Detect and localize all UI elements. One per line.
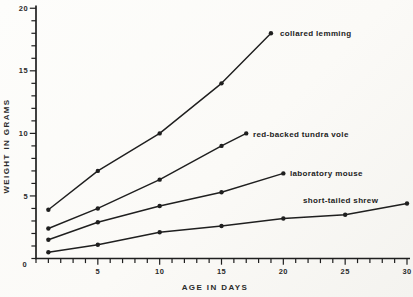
x-tick-label: 30 (402, 267, 411, 276)
data-point-collared-lemming (219, 81, 223, 85)
data-point-collared-lemming (269, 31, 273, 35)
x-tick-label: 10 (155, 267, 164, 276)
series-label-laboratory-mouse: laboratory mouse (290, 169, 363, 178)
data-point-short-tailed-shrew (157, 230, 161, 234)
origin-tick-label: 0 (22, 260, 27, 269)
data-point-red-backed-tundra-vole (157, 177, 161, 181)
x-tick-label: 25 (341, 267, 350, 276)
data-point-short-tailed-shrew (219, 224, 223, 228)
data-point-short-tailed-shrew (281, 216, 285, 220)
data-point-laboratory-mouse (281, 171, 285, 175)
data-point-red-backed-tundra-vole (96, 206, 100, 210)
data-point-red-backed-tundra-vole (46, 226, 50, 230)
series-label-short-tailed-shrew: short-tailed shrew (303, 196, 379, 205)
data-point-collared-lemming (96, 169, 100, 173)
data-point-laboratory-mouse (219, 190, 223, 194)
y-tick-label: 20 (19, 4, 28, 13)
y-tick-label: 10 (19, 129, 28, 138)
series-line-red-backed-tundra-vole (48, 133, 246, 228)
y-axis-title: WEIGHT IN GRAMS (2, 98, 11, 193)
data-point-laboratory-mouse (96, 220, 100, 224)
data-point-laboratory-mouse (46, 238, 50, 242)
x-tick-label: 15 (217, 267, 226, 276)
series-label-red-backed-tundra-vole: red-backed tundra vole (253, 130, 349, 139)
y-tick-label: 5 (23, 192, 28, 201)
data-point-short-tailed-shrew (343, 213, 347, 217)
x-tick-label: 20 (279, 267, 288, 276)
line-chart: 5101520253051015200AGE IN DAYSWEIGHT IN … (0, 0, 413, 297)
series-label-collared-lemming: collared lemming (280, 29, 351, 38)
data-point-red-backed-tundra-vole (244, 131, 248, 135)
data-point-short-tailed-shrew (46, 250, 50, 254)
growth-chart-figure: 5101520253051015200AGE IN DAYSWEIGHT IN … (0, 0, 413, 297)
data-point-red-backed-tundra-vole (219, 144, 223, 148)
series-line-collared-lemming (48, 33, 271, 209)
y-tick-label: 15 (19, 66, 28, 75)
data-point-laboratory-mouse (157, 204, 161, 208)
x-tick-label: 5 (96, 267, 101, 276)
series-line-laboratory-mouse (48, 173, 283, 239)
data-point-short-tailed-shrew (96, 243, 100, 247)
data-point-collared-lemming (157, 131, 161, 135)
data-point-short-tailed-shrew (405, 201, 409, 205)
x-axis-title: AGE IN DAYS (182, 283, 249, 292)
series-line-short-tailed-shrew (48, 203, 407, 252)
data-point-collared-lemming (46, 208, 50, 212)
